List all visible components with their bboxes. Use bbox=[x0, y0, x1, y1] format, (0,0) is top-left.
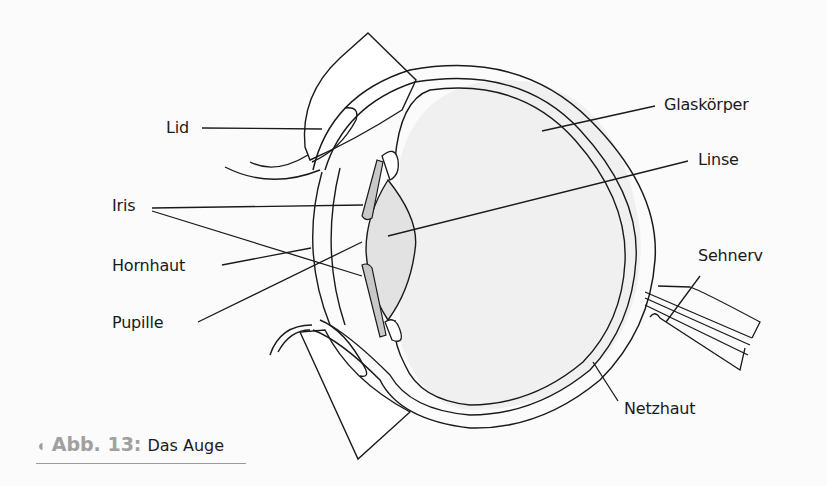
leader-iris-upper bbox=[152, 205, 363, 208]
ciliary-body-bottom bbox=[385, 320, 401, 341]
label-lid: Lid bbox=[166, 118, 189, 137]
textbook-page: Lid Iris Hornhaut Pupille Glaskörper Lin… bbox=[0, 0, 827, 486]
ciliary-body-top bbox=[382, 151, 398, 180]
label-netzhaut: Netzhaut bbox=[624, 399, 695, 418]
label-pupille: Pupille bbox=[112, 313, 163, 332]
caption-marker-icon: ◖ bbox=[36, 437, 46, 455]
label-iris: Iris bbox=[112, 196, 135, 215]
figure-caption: ◖ Abb. 13: Das Auge bbox=[36, 433, 246, 464]
cornea bbox=[313, 168, 345, 325]
lower-eyelid bbox=[270, 320, 410, 459]
leader-netzhaut bbox=[593, 362, 618, 401]
label-glaskoerper: Glaskörper bbox=[664, 95, 749, 114]
optic-nerve bbox=[645, 286, 760, 370]
vitreous-body bbox=[400, 80, 641, 410]
label-hornhaut: Hornhaut bbox=[112, 256, 185, 275]
caption-title: Das Auge bbox=[147, 436, 224, 455]
caption-number: Abb. 13: bbox=[52, 433, 142, 455]
eye-diagram bbox=[0, 0, 827, 486]
label-sehnerv: Sehnerv bbox=[698, 246, 763, 265]
label-linse: Linse bbox=[698, 150, 739, 169]
